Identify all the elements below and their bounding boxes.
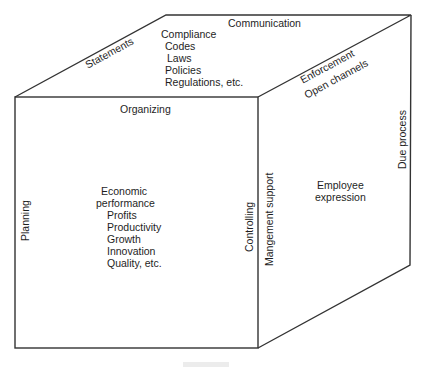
compliance-item: Policies — [161, 64, 243, 76]
controlling-label: Controlling — [243, 202, 255, 252]
compliance-item: Codes — [161, 40, 243, 52]
compliance-item: Regulations, etc. — [161, 76, 243, 88]
employee-line: Employee — [315, 179, 366, 191]
economic-item: Productivity — [96, 221, 162, 233]
scan-artifact — [183, 362, 229, 367]
economic-item: Quality, etc. — [96, 257, 162, 269]
economic-item: Growth — [96, 233, 162, 245]
due-process-label: Due process — [396, 110, 408, 169]
performance-heading: performance — [96, 197, 162, 209]
economic-item: Innovation — [96, 245, 162, 257]
compliance-item: Laws — [161, 52, 243, 64]
economic-heading: Economic — [96, 185, 162, 197]
compliance-heading: Compliance — [161, 28, 243, 40]
planning-label: Planning — [19, 200, 31, 241]
economic-item: Profits — [96, 209, 162, 221]
organizing-label: Organizing — [120, 103, 171, 115]
management-support-label: Mangement support — [263, 173, 275, 266]
expression-line: expression — [315, 191, 366, 203]
employee-expression-block: Employee expression — [315, 179, 366, 203]
compliance-block: Compliance Codes Laws Policies Regulatio… — [161, 28, 243, 88]
economic-performance-block: Economic performance Profits Productivit… — [96, 185, 162, 269]
